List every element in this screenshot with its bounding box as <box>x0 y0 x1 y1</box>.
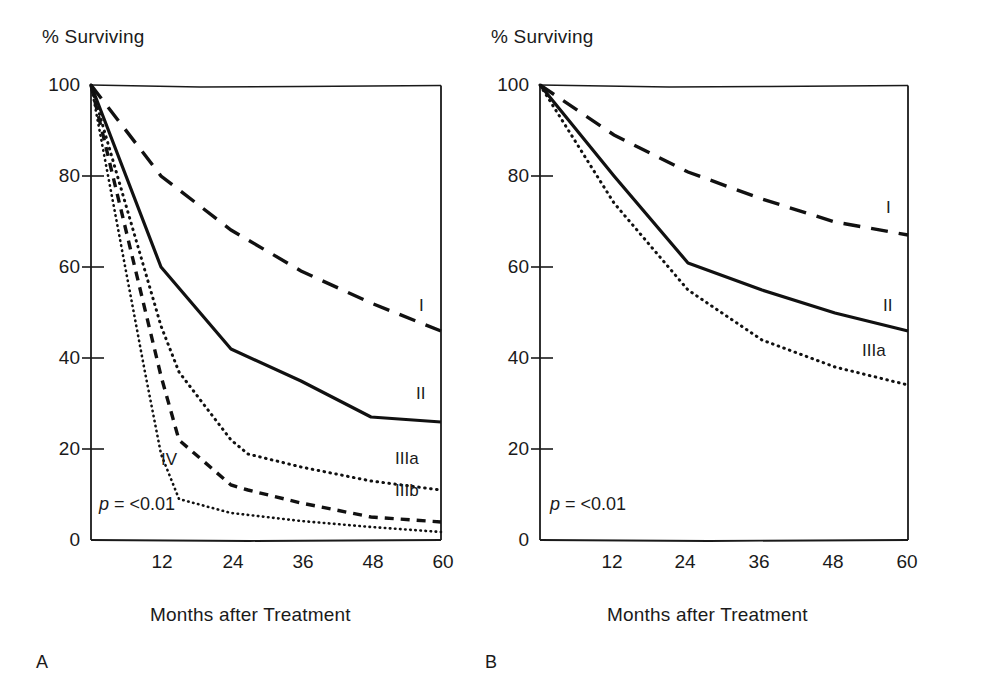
panel-a-x-axis-line <box>91 540 441 541</box>
panel-b-curve-IIIa <box>540 85 908 385</box>
panel-a-plot <box>0 0 500 700</box>
panel-a-label-IIIb: IIIb <box>395 481 419 501</box>
panel-a-box-top <box>91 85 441 87</box>
panel-b-x-axis-line <box>540 540 908 541</box>
panel-b: % Surviving 100 80 60 40 20 0 12 24 36 4… <box>449 0 983 700</box>
panel-a-curve-IIIb <box>91 85 441 522</box>
panel-a: % Surviving 100 80 60 40 20 0 12 24 36 4… <box>0 0 500 700</box>
panel-b-letter: B <box>485 652 497 673</box>
panel-a-curve-II <box>91 85 441 422</box>
panel-b-x-axis-title: Months after Treatment <box>607 604 808 626</box>
panel-b-p-value: p = <0.01 <box>550 494 626 515</box>
panel-b-p-symbol: p <box>550 494 560 514</box>
panel-b-p-text: = <0.01 <box>560 494 626 514</box>
panel-b-label-II: II <box>883 296 892 316</box>
panel-a-label-IV: IV <box>161 450 177 470</box>
panel-a-curve-I <box>91 85 441 331</box>
survival-curves-figure: % Surviving 100 80 60 40 20 0 12 24 36 4… <box>0 0 983 700</box>
panel-b-curve-I <box>540 85 908 235</box>
panel-a-label-I: I <box>419 296 424 316</box>
panel-a-p-text: = <0.01 <box>109 494 175 514</box>
panel-b-plot <box>449 0 983 700</box>
panel-a-label-II: II <box>416 384 425 404</box>
panel-a-letter: A <box>36 652 48 673</box>
panel-a-p-symbol: p <box>99 494 109 514</box>
panel-b-box-top <box>540 85 908 87</box>
panel-b-label-IIIa: IIIa <box>862 341 886 361</box>
panel-a-p-value: p = <0.01 <box>99 494 175 515</box>
panel-a-label-IIIa: IIIa <box>395 449 419 469</box>
panel-b-label-I: I <box>886 198 891 218</box>
panel-a-x-axis-title: Months after Treatment <box>150 604 351 626</box>
panel-a-curve-IIIa <box>91 85 441 490</box>
panel-a-y-ticks <box>82 176 104 449</box>
panel-b-y-ticks <box>531 176 553 449</box>
